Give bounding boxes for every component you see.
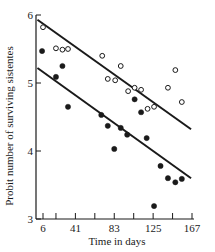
lower-fit-line: [37, 68, 191, 178]
open-circle-point: [173, 68, 178, 73]
y-tick-label: 5: [28, 77, 34, 89]
filled-circle-point: [53, 74, 58, 79]
filled-circle-point: [179, 176, 184, 181]
open-circle-point: [139, 87, 144, 92]
filled-circle-point: [144, 135, 149, 140]
x-tick-label: 6: [40, 222, 46, 234]
filled-circle-point: [173, 180, 178, 185]
open-circle-point: [132, 85, 137, 90]
open-circle-point: [118, 64, 123, 69]
filled-circle-point: [112, 146, 117, 151]
x-ticks: 64183125167: [40, 213, 201, 234]
open-circle-point: [100, 53, 105, 58]
open-circle-point: [166, 85, 171, 90]
open-circle-point: [113, 78, 118, 83]
x-axis-label: Time in days: [88, 235, 145, 247]
y-tick-label: 3: [28, 213, 34, 225]
x-tick-label: 83: [109, 222, 121, 234]
filled-circle-point: [165, 176, 170, 181]
open-circle-point: [60, 47, 65, 52]
filled-circle-point: [151, 203, 156, 208]
filled-circle-point: [105, 123, 110, 128]
filled-circle-point: [60, 63, 65, 68]
open-circle-point: [41, 25, 46, 30]
filled-circle-point: [125, 132, 130, 137]
upper-fit-line: [37, 20, 191, 129]
y-tick-label: 6: [28, 9, 34, 21]
open-circle-point: [66, 47, 71, 52]
y-ticks: 3456: [28, 9, 42, 225]
open-circle-point: [145, 106, 150, 111]
filled-circle-point: [158, 163, 163, 168]
probit-survival-chart: 3456 64183125167 Time in days Probit num…: [0, 0, 215, 252]
x-tick-label: 125: [145, 222, 162, 234]
regression-lines: [37, 20, 191, 178]
y-axis-label: Probit number of surviving sistentes: [3, 46, 15, 206]
open-circle-point: [126, 89, 131, 94]
x-tick-label: 167: [184, 222, 201, 234]
filled-circle-point: [138, 110, 143, 115]
axes: [36, 15, 194, 219]
open-circle-point: [54, 46, 59, 51]
filled-circle-point: [39, 48, 44, 53]
open-circle-point: [152, 104, 157, 109]
y-tick-label: 4: [28, 145, 34, 157]
filled-circle-point: [65, 104, 70, 109]
data-points: [39, 25, 184, 209]
open-circle-point: [179, 100, 184, 105]
x-tick-label: 41: [70, 222, 81, 234]
filled-circle-point: [118, 125, 123, 130]
open-circle-point: [105, 77, 110, 82]
filled-circle-point: [99, 112, 104, 117]
filled-circle-point: [132, 97, 137, 102]
